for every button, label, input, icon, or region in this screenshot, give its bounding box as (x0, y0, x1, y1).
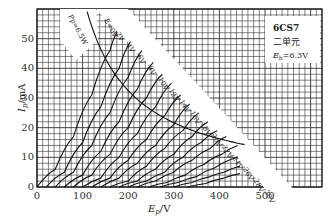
svg-text:40: 40 (21, 62, 34, 73)
svg-text:400: 400 (210, 190, 229, 201)
svg-text:50: 50 (21, 33, 34, 44)
svg-text:200: 200 (119, 190, 138, 201)
curve--4V (55, 51, 142, 187)
svg-text:0: 0 (28, 181, 34, 192)
svg-text:100: 100 (73, 190, 92, 201)
heater-voltage: Eh=6.3V (272, 51, 308, 61)
svg-text:10: 10 (21, 151, 34, 162)
svg-text:0: 0 (34, 190, 40, 201)
curve--26V (160, 157, 238, 187)
plate-characteristics-chart: E=0V-2V-4V-6V-8V-10V-12V-14V-16V-18V-20V… (0, 0, 331, 219)
svg-text:300: 300 (164, 190, 183, 201)
svg-text:20: 20 (21, 122, 34, 133)
svg-text:500: 500 (255, 190, 274, 201)
tube-model: 6CS7 (273, 23, 299, 33)
info-box: 6CS7 二单元 Eh=6.3V (265, 16, 320, 63)
x-axis-title: Ep/V (147, 203, 171, 216)
unit-label: 二单元 (273, 36, 300, 47)
